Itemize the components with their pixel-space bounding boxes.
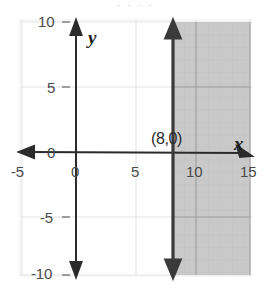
y-tick-label-neg10: -10 [31,266,52,281]
y-tick-label-0: 0 [47,145,55,160]
x-axis-label: x [234,134,244,153]
x-tick-label-15: 15 [240,164,256,179]
y-axis-label: y [88,28,96,47]
x-tick-label-5: 5 [131,164,139,179]
graph-figure: · · · · [0,0,270,290]
y-tick-label-10: 10 [38,14,54,29]
x-tick-label-0: 0 [71,164,79,179]
y-tick-label-5: 5 [47,80,55,95]
coordinate-plane-svg [0,0,270,290]
x-tick-label-neg5: -5 [11,164,24,179]
x-tick-label-10: 10 [186,164,202,179]
intercept-point-label: (8,0) [151,131,182,147]
y-tick-label-neg5: -5 [40,210,53,225]
